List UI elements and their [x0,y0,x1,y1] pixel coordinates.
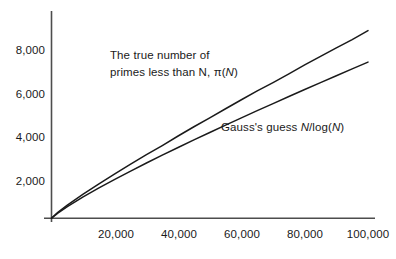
annotation-pi-n-line1: The true number of [110,47,238,64]
chart-figure: 8,000 6,000 4,000 2,000 20,000 40,000 60… [0,0,396,259]
y-tick-label-6000: 6,000 [0,88,45,100]
y-tick-label-4000: 4,000 [0,131,45,143]
annotation-gauss-prefix: Gauss's guess [221,121,301,133]
x-tick-label-60000: 60,000 [224,228,260,240]
x-tick-label-100000: 100,000 [347,228,389,240]
x-tick-label-80000: 80,000 [287,228,323,240]
annotation-pi-n: The true number of primes less than N, π… [110,47,238,81]
annotation-pi-n-line2: primes less than N, π(N) [110,64,238,81]
x-tick-label-20000: 20,000 [98,228,134,240]
annotation-gauss-guess: Gauss's guess N/log(N) [221,119,344,136]
series-line-n-over-log-n [52,62,369,218]
gauss-numerator-variable: N [301,121,309,133]
pi-symbol: π( [214,66,226,78]
pi-close-paren: ) [234,66,238,78]
annotation-pi-n-line2-text: primes less than N, [110,66,214,78]
y-tick-label-8000: 8,000 [0,44,45,56]
gauss-close-paren: ) [340,121,344,133]
y-tick-label-2000: 2,000 [0,175,45,187]
pi-arg-variable: N [226,66,234,78]
x-tick-label-40000: 40,000 [161,228,197,240]
gauss-log-text: /log( [309,121,332,133]
